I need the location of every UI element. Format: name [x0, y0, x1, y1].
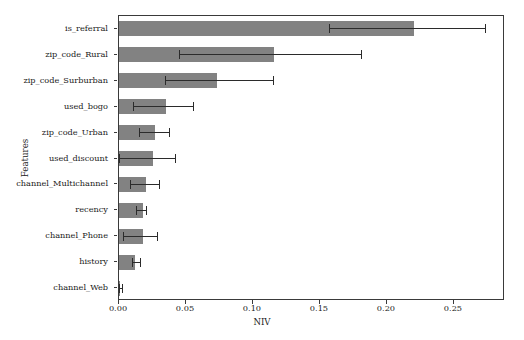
y-axis-tick-mark [114, 235, 117, 236]
error-bar-cap-low [132, 258, 133, 267]
error-bar-line [133, 106, 193, 107]
y-axis-tick-mark [114, 287, 117, 288]
y-axis-tick-label: channel_Web [53, 283, 108, 291]
y-axis-tick-label: channel_Phone [45, 231, 108, 239]
y-axis-tick-mark [114, 80, 117, 81]
bar-row [119, 281, 503, 296]
error-bar-cap-high [159, 180, 160, 189]
y-axis-tick-label: used_discount [49, 153, 108, 161]
bar-row [119, 99, 503, 114]
error-bar-cap-low [119, 154, 120, 163]
error-bar-line [136, 210, 146, 211]
error-bar-cap-high [361, 50, 362, 59]
error-bar-cap-high [157, 232, 158, 241]
bar-row [119, 151, 503, 166]
error-bar-cap-low [123, 232, 124, 241]
y-axis-tick-label: is_referral [65, 24, 108, 32]
y-axis-tick-mark [114, 261, 117, 262]
error-bar-cap-low [139, 128, 140, 137]
bar-row [119, 177, 503, 192]
error-bar-cap-high [273, 76, 274, 85]
error-bar-cap-high [169, 128, 170, 137]
bar-row [119, 47, 503, 62]
bar-row [119, 255, 503, 270]
y-axis-tick-mark [114, 158, 117, 159]
y-axis-tick-label: zip_code_Surburban [23, 76, 108, 84]
error-bar-line [139, 132, 169, 133]
error-bar-cap-high [193, 102, 194, 111]
error-bar-cap-low [179, 50, 180, 59]
bar-row [119, 73, 503, 88]
error-bar-cap-high [485, 24, 486, 33]
bars-layer [119, 16, 503, 299]
error-bar-cap-low [133, 102, 134, 111]
y-axis-tick-mark [114, 183, 117, 184]
x-axis-tick-label: 0.15 [310, 304, 328, 312]
error-bar-cap-high [122, 284, 123, 293]
x-axis-tick-label: 0.20 [377, 304, 395, 312]
x-axis-tick-label: 0.00 [109, 304, 127, 312]
y-axis-tick-mark [114, 28, 117, 29]
error-bar-cap-high [175, 154, 176, 163]
y-axis-tick-mark [114, 132, 117, 133]
error-bar-cap-low [329, 24, 330, 33]
y-axis-tick-label: used_bogo [64, 102, 108, 110]
error-bar-line [132, 262, 140, 263]
error-bar-cap-low [119, 284, 120, 293]
bar-row [119, 21, 503, 36]
y-axis-tick-label: channel_Multichannel [16, 179, 108, 187]
error-bar-line [119, 158, 175, 159]
y-axis-tick-label: zip_code_Rural [45, 50, 108, 58]
x-axis-label: NIV [0, 317, 524, 327]
bar-row [119, 125, 503, 140]
y-axis-tick-labels: is_referralzip_code_Ruralzip_code_Surbur… [0, 15, 114, 300]
plot-area [118, 15, 504, 300]
error-bar-line [329, 28, 485, 29]
error-bar-line [123, 236, 157, 237]
x-axis-tick-label: 0.05 [176, 304, 194, 312]
bar-row [119, 203, 503, 218]
error-bar-cap-low [130, 180, 131, 189]
error-bar-cap-low [165, 76, 166, 85]
x-axis-tick-labels: 0.000.050.100.150.200.25 [0, 304, 524, 318]
y-axis-tick-label: recency [75, 205, 108, 213]
error-bar-cap-high [146, 206, 147, 215]
error-bar-line [179, 54, 361, 55]
error-bar-cap-high [140, 258, 141, 267]
y-axis-tick-mark [114, 209, 117, 210]
y-axis-tick-mark [114, 54, 117, 55]
y-axis-tick-label: zip_code_Urban [42, 127, 108, 135]
error-bar-line [165, 80, 273, 81]
error-bar-cap-low [136, 206, 137, 215]
y-axis-tick-label: history [79, 257, 108, 265]
y-axis-tick-mark [114, 106, 117, 107]
chart-figure: Features is_referralzip_code_Ruralzip_co… [0, 0, 524, 340]
error-bar-line [130, 184, 159, 185]
x-axis-tick-label: 0.10 [243, 304, 261, 312]
x-axis-tick-label: 0.25 [444, 304, 462, 312]
bar-row [119, 229, 503, 244]
